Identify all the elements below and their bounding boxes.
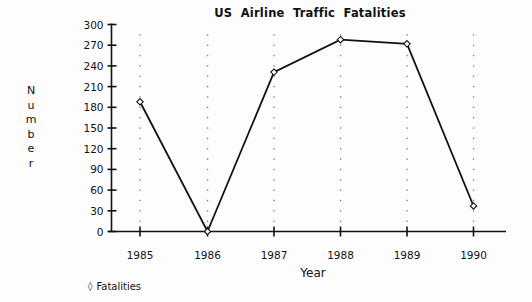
x-tick-label: 1988	[319, 249, 363, 261]
y-tick-label: 270	[70, 40, 104, 50]
gridlines	[139, 34, 474, 222]
y-tick-label: 0	[70, 227, 104, 237]
legend-label-fatalities: Fatalities	[96, 281, 141, 292]
x-tick-label: 1990	[452, 249, 496, 261]
y-tick-label: 120	[70, 144, 104, 154]
series-line-fatalities	[140, 40, 474, 232]
data-series	[137, 36, 477, 234]
y-tick-label: 210	[70, 82, 104, 92]
y-tick-label: 180	[70, 102, 104, 112]
y-tick-label: 240	[70, 61, 104, 71]
y-tick-label: 90	[70, 164, 104, 174]
x-axis-title: Year	[268, 266, 358, 280]
x-tick-label: 1985	[118, 249, 162, 261]
chart-legend: ◊ Fatalities	[88, 281, 141, 292]
x-tick-label: 1987	[252, 249, 296, 261]
chart-container: US Airline Traffic Fatalities N u m b e …	[0, 0, 532, 302]
y-tick-label: 150	[70, 123, 104, 133]
series-markers	[137, 36, 477, 234]
x-tick-label: 1989	[385, 249, 429, 261]
y-tick-label: 60	[70, 185, 104, 195]
y-tick-label: 300	[70, 20, 104, 30]
x-tick-label: 1986	[186, 249, 230, 261]
y-tick-label: 30	[70, 206, 104, 216]
legend-marker-diamond-icon: ◊	[88, 282, 92, 291]
